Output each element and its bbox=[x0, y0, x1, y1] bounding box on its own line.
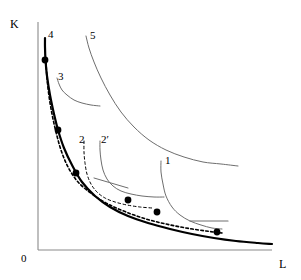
curve-label-4: 4 bbox=[48, 29, 54, 40]
curve-label-3: 3 bbox=[58, 71, 64, 82]
data-point-markers bbox=[42, 57, 221, 236]
curve-label-2: 2 bbox=[79, 134, 85, 145]
curve-isoquant-3 bbox=[57, 78, 100, 106]
x-axis-label: L bbox=[279, 258, 286, 270]
data-point-marker bbox=[214, 229, 221, 236]
axes-group bbox=[38, 22, 272, 250]
data-point-marker bbox=[154, 209, 161, 216]
curve-label-2-prime: 2′ bbox=[101, 134, 109, 145]
curve-cost-path-dashed bbox=[46, 62, 222, 233]
curve-isoquant-2-dashed bbox=[84, 141, 152, 208]
curve-tangent-line-2prime bbox=[94, 178, 128, 188]
data-point-marker bbox=[55, 127, 62, 134]
isoquant-diagram: K L 0 1 2 2′ 3 4 5 bbox=[0, 0, 301, 280]
data-point-marker bbox=[125, 197, 132, 204]
y-axis-label: K bbox=[10, 18, 19, 30]
curve-label-1: 1 bbox=[165, 155, 171, 166]
plot-canvas bbox=[0, 0, 301, 280]
data-point-marker bbox=[73, 170, 80, 177]
curve-isoquant-1 bbox=[161, 161, 222, 229]
origin-label: 0 bbox=[21, 253, 27, 264]
data-point-marker bbox=[42, 57, 49, 64]
curve-isoquant-2prime bbox=[100, 141, 164, 197]
curve-isoquant-5 bbox=[86, 36, 238, 166]
curve-label-5: 5 bbox=[90, 30, 96, 41]
